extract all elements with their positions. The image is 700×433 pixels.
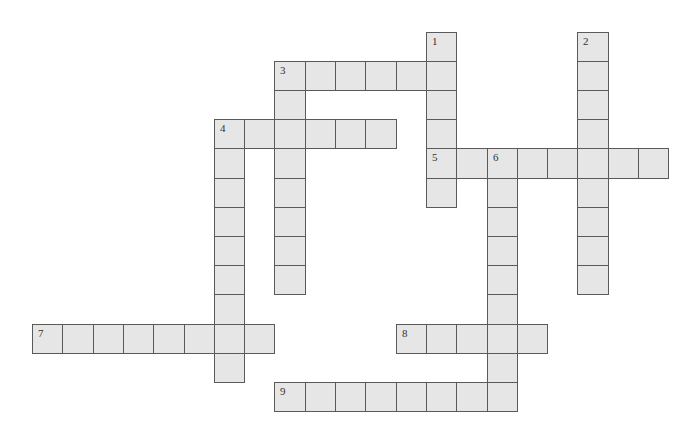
crossword-cell[interactable] <box>274 207 306 237</box>
crossword-cell[interactable] <box>577 90 609 120</box>
crossword-cell[interactable] <box>577 178 609 208</box>
crossword-cell[interactable] <box>487 353 518 383</box>
crossword-cell[interactable] <box>274 178 306 208</box>
crossword-cell[interactable]: 9 <box>274 382 306 412</box>
crossword-cell[interactable] <box>305 61 336 91</box>
clue-number: 9 <box>280 386 286 397</box>
crossword-cell[interactable] <box>396 61 427 91</box>
crossword-cell[interactable] <box>487 382 518 412</box>
crossword-cell[interactable] <box>547 148 578 179</box>
crossword-cell[interactable] <box>214 236 245 266</box>
crossword-grid: 152346789 <box>0 0 700 433</box>
crossword-cell[interactable] <box>487 265 518 295</box>
crossword-cell[interactable] <box>517 324 548 354</box>
crossword-cell[interactable] <box>305 119 336 149</box>
crossword-cell[interactable] <box>577 207 609 237</box>
crossword-cell[interactable] <box>244 119 275 149</box>
clue-number: 7 <box>38 328 44 339</box>
crossword-cell[interactable] <box>456 148 488 179</box>
crossword-cell[interactable] <box>577 119 609 149</box>
crossword-cell[interactable] <box>608 148 639 179</box>
crossword-cell[interactable] <box>426 61 457 91</box>
crossword-cell[interactable] <box>487 207 518 237</box>
crossword-cell[interactable] <box>487 294 518 325</box>
crossword-cell[interactable] <box>365 382 397 412</box>
crossword-cell[interactable]: 4 <box>214 119 245 149</box>
crossword-cell[interactable] <box>426 119 457 149</box>
crossword-cell[interactable] <box>305 382 336 412</box>
crossword-cell[interactable] <box>123 324 154 354</box>
crossword-cell[interactable] <box>517 148 548 179</box>
crossword-cell[interactable] <box>214 353 245 383</box>
crossword-cell[interactable] <box>577 148 609 179</box>
clue-number: 8 <box>402 328 408 339</box>
crossword-cell[interactable] <box>214 178 245 208</box>
crossword-cell[interactable] <box>577 265 609 295</box>
crossword-cell[interactable] <box>214 265 245 295</box>
clue-number: 5 <box>432 152 438 163</box>
crossword-cell[interactable] <box>365 61 397 91</box>
crossword-cell[interactable] <box>638 148 669 179</box>
crossword-cell[interactable] <box>456 324 488 354</box>
crossword-cell[interactable] <box>487 236 518 266</box>
crossword-cell[interactable] <box>335 61 366 91</box>
crossword-cell[interactable] <box>93 324 124 354</box>
crossword-cell[interactable] <box>214 207 245 237</box>
crossword-cell[interactable] <box>426 382 457 412</box>
crossword-cell[interactable]: 6 <box>487 148 518 179</box>
crossword-cell[interactable]: 3 <box>274 61 306 91</box>
crossword-cell[interactable] <box>214 148 245 179</box>
clue-number: 3 <box>280 65 286 76</box>
crossword-cell[interactable] <box>426 178 457 208</box>
crossword-cell[interactable] <box>184 324 215 354</box>
clue-number: 6 <box>493 152 499 163</box>
crossword-cell[interactable] <box>335 119 366 149</box>
crossword-cell[interactable] <box>396 382 427 412</box>
crossword-cell[interactable] <box>214 294 245 325</box>
crossword-cell[interactable]: 7 <box>32 324 63 354</box>
crossword-cell[interactable] <box>274 90 306 120</box>
crossword-cell[interactable] <box>214 324 245 354</box>
clue-number: 4 <box>220 123 226 134</box>
crossword-cell[interactable] <box>577 61 609 91</box>
crossword-cell[interactable] <box>244 324 275 354</box>
crossword-cell[interactable] <box>62 324 94 354</box>
crossword-cell[interactable] <box>426 90 457 120</box>
clue-number: 1 <box>432 36 438 47</box>
crossword-cell[interactable] <box>456 382 488 412</box>
crossword-cell[interactable] <box>426 324 457 354</box>
crossword-cell[interactable]: 8 <box>396 324 427 354</box>
crossword-cell[interactable] <box>274 236 306 266</box>
crossword-cell[interactable] <box>487 324 518 354</box>
crossword-cell[interactable]: 5 <box>426 148 457 179</box>
crossword-cell[interactable] <box>274 265 306 295</box>
clue-number: 2 <box>583 36 589 47</box>
crossword-cell[interactable] <box>274 119 306 149</box>
crossword-cell[interactable] <box>274 148 306 179</box>
crossword-cell[interactable]: 1 <box>426 32 457 62</box>
crossword-cell[interactable] <box>365 119 397 149</box>
crossword-cell[interactable] <box>335 382 366 412</box>
crossword-cell[interactable] <box>577 236 609 266</box>
crossword-cell[interactable] <box>487 178 518 208</box>
crossword-cell[interactable]: 2 <box>577 32 609 62</box>
crossword-cell[interactable] <box>153 324 185 354</box>
